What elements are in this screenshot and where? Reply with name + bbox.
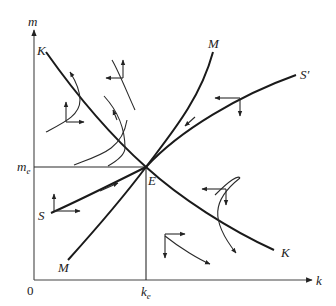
me-label: me (17, 159, 30, 176)
m-curve-label-end: M (207, 36, 220, 51)
s-arrow-icon (100, 183, 118, 191)
phase-diagram: m k 0 ke me E K K M M S S′ (0, 0, 336, 306)
m-curve-label-start: M (57, 260, 70, 275)
k-curve-label-end: K (280, 245, 291, 260)
y-axis-label: m (28, 14, 37, 29)
s-prime-saddle-path (146, 75, 296, 167)
direction-arrows (54, 60, 240, 258)
origin-label: 0 (27, 283, 34, 298)
m-curve (68, 52, 213, 260)
equilibrium-label: E (147, 173, 156, 188)
s-path-label-end: S′ (300, 67, 310, 82)
s-prime-arrow-icon (185, 117, 195, 126)
k-curve (46, 52, 274, 250)
s-saddle-path (51, 167, 146, 213)
s-path-label-start: S (38, 208, 45, 223)
k-curve-label-start: K (36, 43, 47, 58)
ke-label: ke (141, 284, 151, 301)
x-axis-label: k (316, 273, 322, 288)
